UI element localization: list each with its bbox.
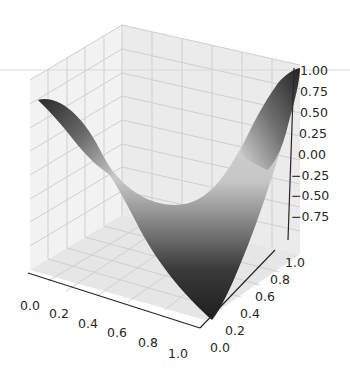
x-tick-label: 1.0	[168, 346, 188, 361]
x-tick-label: 0.2	[49, 306, 69, 321]
y-tick-label: 0.6	[255, 289, 275, 304]
x-tick-label: 0.6	[107, 325, 127, 340]
x-tick-label: 0.4	[78, 316, 98, 331]
z-tick-label: 0.50	[300, 105, 328, 120]
z-tick-label: −0.25	[291, 168, 329, 183]
y-tick-label: 0.4	[240, 306, 260, 321]
x-tick-label: 0.8	[138, 335, 158, 350]
z-tick-label: 1.00	[300, 63, 328, 78]
z-tick-label: −0.75	[291, 209, 329, 224]
z-tick-label: −0.50	[291, 188, 329, 203]
z-tick-label: 0.00	[298, 147, 326, 162]
z-tick-label: 0.25	[299, 126, 327, 141]
z-tick-label: 0.75	[300, 84, 328, 99]
y-tick-label: 1.0	[285, 255, 305, 270]
y-tick-label: 0.0	[210, 340, 230, 355]
y-tick-label: 0.8	[270, 272, 290, 287]
surface-plot-figure: 1.00 0.75 0.50 0.25 0.00 −0.25 −0.50 −0.…	[0, 0, 350, 373]
y-tick-label: 0.2	[225, 323, 245, 338]
x-tick-label: 0.0	[20, 298, 40, 313]
